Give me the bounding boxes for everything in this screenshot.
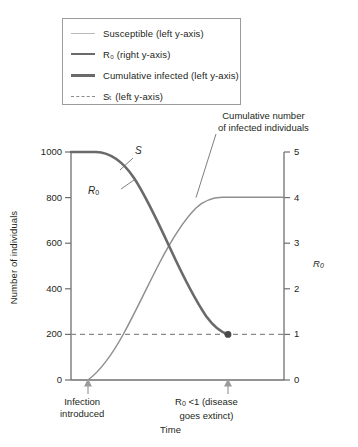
- left-tick-label-200: 200: [28, 328, 62, 339]
- leader-line-cumulative: [196, 134, 216, 198]
- leader-line-r0: [121, 180, 134, 189]
- curve-label-susceptible: S: [135, 145, 142, 156]
- extinction-point-marker: [225, 331, 232, 338]
- right-tick-label-4: 4: [294, 192, 314, 203]
- curve-cumulative-infected: [88, 197, 284, 380]
- left-tick-label-400: 400: [28, 283, 62, 294]
- right-tick-label-2: 2: [294, 283, 314, 294]
- annotation-infection-introduced: Infection introduced: [60, 396, 104, 419]
- annotation-disease-extinct: R0 <1 (disease goes extinct): [175, 396, 238, 421]
- right-tick-label-3: 3: [294, 237, 314, 248]
- curve-label-r0: R0: [88, 185, 99, 196]
- left-tick-label-600: 600: [28, 237, 62, 248]
- curve-susceptible-r0: [71, 152, 228, 334]
- annotation-cumulative-line2: of infected individuals: [218, 122, 309, 134]
- right-tick-marks: [284, 152, 290, 380]
- y-axis-label-left: Number of individuals: [8, 198, 19, 318]
- axis-annotation-arrows: [85, 380, 231, 394]
- annotation-cumulative-line1: Cumulative number: [218, 110, 309, 122]
- left-tick-label-800: 800: [28, 192, 62, 203]
- right-tick-label-5: 5: [294, 146, 314, 157]
- x-axis-label: Time: [160, 424, 181, 435]
- left-tick-marks: [65, 152, 71, 380]
- annotation-extinct-line2: goes extinct): [175, 410, 238, 422]
- left-tick-label-1000: 1000: [28, 146, 62, 157]
- figure-root: Susceptible (left y-axis) R₀ (right y-ax…: [0, 0, 358, 447]
- right-tick-label-1: 1: [294, 328, 314, 339]
- left-tick-label-0: 0: [28, 374, 62, 385]
- annotation-infection-line1: Infection: [60, 396, 104, 408]
- annotation-cumulative-number: Cumulative number of infected individual…: [218, 110, 309, 133]
- right-tick-label-0: 0: [294, 374, 314, 385]
- annotation-infection-line2: introduced: [60, 408, 104, 420]
- y-axis-label-right: R0: [313, 258, 324, 269]
- annotation-extinct-line1: R0 <1 (disease: [175, 396, 238, 410]
